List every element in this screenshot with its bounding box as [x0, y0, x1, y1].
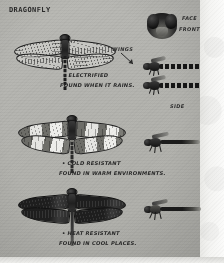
- specimen-3-note-line-1: • HEAT RESISTANT: [62, 229, 120, 238]
- specimen-2-note-line-1: • COLD RESISTANT: [62, 159, 121, 168]
- compound-eye-right: [165, 14, 177, 29]
- leg-1: [149, 212, 153, 219]
- side-view-1: [143, 60, 203, 76]
- side-view-2: [143, 79, 203, 95]
- leg-1: [149, 88, 152, 94]
- side-view-4: [144, 203, 202, 219]
- abdomen: [160, 140, 200, 144]
- specimen-3-note-line-2: FOUND IN COOL PLACES.: [59, 239, 137, 248]
- dragonfly-top-view-3: [16, 185, 128, 247]
- leg-3: [159, 212, 162, 219]
- specimen-1-note-line-1: • ELECTRIFIED: [63, 71, 108, 80]
- abdomen: [71, 137, 74, 173]
- leg-2: [153, 69, 155, 76]
- leg-2: [153, 88, 155, 95]
- abdomen: [160, 207, 201, 211]
- dragonfly-field-guide-page: DRAGONFLY • ELECTRIFIED FOUND WHEN IT RA…: [0, 0, 224, 263]
- paper-right-edge: [200, 0, 224, 263]
- paper-bottom-edge: [0, 257, 224, 263]
- label-front: FRONT: [179, 26, 200, 32]
- abdomen: [159, 83, 201, 88]
- wings-pointer-arrow: [120, 52, 140, 68]
- page-title: DRAGONFLY: [9, 6, 51, 14]
- head-front-view-illustration: [147, 13, 177, 39]
- specimen-1-note-line-2: FOUND WHEN IT RAINS.: [60, 81, 135, 90]
- leg-2: [154, 145, 156, 153]
- mouthparts: [156, 27, 168, 36]
- leg-3: [159, 145, 162, 152]
- specimen-2-note-line-2: FOUND IN WARM ENVIRONMENTS.: [59, 169, 166, 178]
- leg-1: [149, 145, 153, 152]
- label-face: FACE: [182, 15, 197, 21]
- side-view-3: [144, 136, 202, 152]
- abdomen: [159, 64, 201, 69]
- leg-2: [154, 212, 156, 220]
- leg-1: [149, 69, 152, 75]
- label-side: SIDE: [170, 103, 185, 109]
- leg-3: [157, 69, 159, 75]
- leg-3: [157, 88, 159, 94]
